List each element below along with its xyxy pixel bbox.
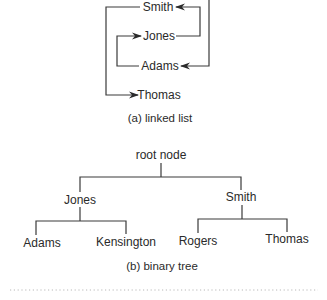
smith-branch — [198, 219, 287, 233]
tree-node-thomas: Thomas — [265, 232, 308, 246]
root-branch — [80, 177, 241, 192]
tree-node-adams: Adams — [23, 236, 60, 250]
tree-node-kensington: Kensington — [96, 235, 156, 249]
tree-node-rogers: Rogers — [179, 234, 218, 248]
jones-branch — [36, 221, 126, 235]
tree-root-node: root node — [136, 148, 187, 162]
tree-node-smith: Smith — [226, 190, 257, 204]
list-node-jones: Jones — [143, 29, 175, 43]
list-node-adams: Adams — [141, 59, 178, 73]
adams-to-jones-link — [117, 36, 141, 66]
list-node-thomas: Thomas — [137, 88, 180, 102]
caption-binary-tree: (b) binary tree — [126, 259, 198, 273]
jones-to-smith-link — [176, 7, 200, 36]
smith-to-thomas-link — [106, 7, 140, 95]
tree-node-jones: Jones — [64, 193, 96, 207]
list-node-smith: Smith — [143, 0, 174, 14]
caption-linked-list: (a) linked list — [128, 111, 193, 125]
head-to-adams-link — [181, 0, 209, 66]
